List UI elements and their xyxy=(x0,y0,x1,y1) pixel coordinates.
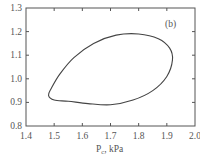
x-tick-label: 1.5 xyxy=(48,131,60,141)
y-tick-label: 0.9 xyxy=(10,97,22,107)
panel-label: (b) xyxy=(165,19,176,30)
x-tick-label: 1.9 xyxy=(161,131,173,141)
x-tick-label: 1.8 xyxy=(133,131,145,141)
y-tick-label: 1.2 xyxy=(10,27,22,37)
x-tick-label: 2.0 xyxy=(189,131,200,141)
y-tick-label: 1.1 xyxy=(10,50,22,60)
y-tick-label: 1.0 xyxy=(10,74,22,84)
x-axis-label: Pc, kPa xyxy=(96,144,124,154)
data-series xyxy=(48,34,172,105)
y-tick-label: 0.8 xyxy=(10,121,22,131)
x-tick-label: 1.4 xyxy=(20,131,32,141)
loop-curve xyxy=(48,34,172,105)
x-tick-label: 1.6 xyxy=(76,131,88,141)
y-tick-label: 1.3 xyxy=(10,3,22,13)
chart: 1.41.51.61.71.81.92.0 0.80.91.01.11.21.3… xyxy=(0,0,200,154)
x-axis-label-unit: , kPa xyxy=(104,144,124,154)
x-tick-label: 1.7 xyxy=(105,131,117,141)
